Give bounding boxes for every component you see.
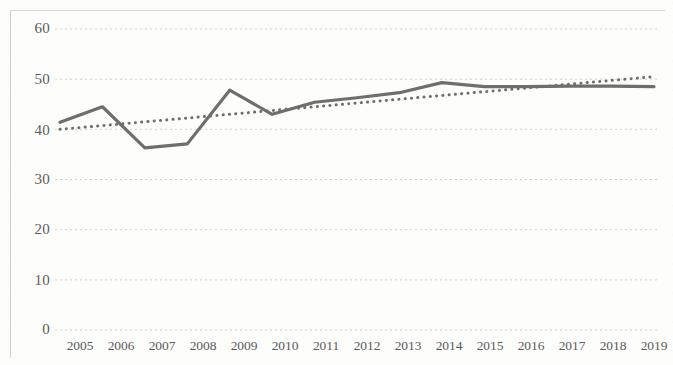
data-series-path bbox=[60, 83, 654, 148]
line-chart-figure: 60 50 40 30 20 10 0 2005 2006 2007 2008 … bbox=[0, 0, 673, 365]
gridlines-group bbox=[55, 29, 660, 330]
chart-canvas bbox=[0, 0, 673, 365]
series-group bbox=[60, 77, 654, 148]
trendline-path bbox=[60, 77, 654, 130]
plot-area: 60 50 40 30 20 10 0 2005 2006 2007 2008 … bbox=[0, 0, 673, 365]
